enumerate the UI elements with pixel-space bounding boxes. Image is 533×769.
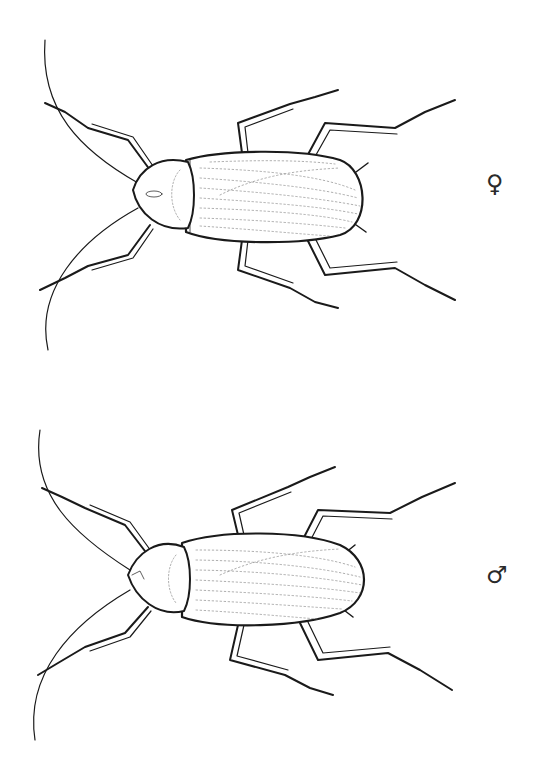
male-cockroach-drawing <box>0 385 533 769</box>
antenna-lower <box>34 590 130 740</box>
female-symbol-icon: ♀ <box>486 172 504 196</box>
antenna-lower <box>46 208 138 350</box>
antenna-upper <box>45 40 138 183</box>
illustration-plate: ♀ female <box>0 0 533 769</box>
male-symbol-icon: ♂ <box>486 563 508 587</box>
female-cockroach-drawing <box>0 0 533 385</box>
male-specimen: ♂ male <box>0 385 533 769</box>
female-specimen: ♀ female <box>0 0 533 385</box>
antenna-upper <box>39 430 130 570</box>
